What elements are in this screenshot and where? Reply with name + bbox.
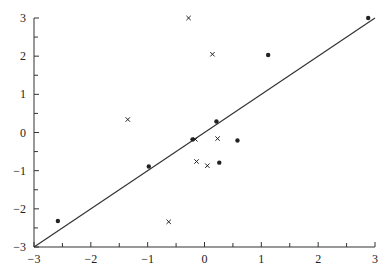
cross-marker [166,220,170,224]
cross-marker [210,52,214,56]
x-tick-label: 3 [372,252,378,266]
dot-marker [56,219,60,223]
scatter-chart: −3−2−10123−3−2−10123 [0,0,389,277]
y-tick-label: −3 [13,240,26,254]
cross-marker [205,164,209,168]
cross-marker [194,159,198,163]
y-tick-label: 3 [20,11,26,25]
y-tick-label: −1 [13,164,26,178]
dot-marker [366,16,370,20]
dot-marker [235,138,239,142]
x-tick-label: 0 [202,252,208,266]
dot-marker [147,164,151,168]
y-tick-label: 1 [20,87,26,101]
identity-line [34,18,375,247]
dot-marker [266,53,270,57]
reference-line [34,18,375,247]
dot-marker [217,160,221,164]
dot-marker [214,119,218,123]
cross-marker [215,136,219,140]
cross-marker [126,117,130,121]
x-tick-label: −2 [84,252,97,266]
y-tick-label: −2 [13,202,26,216]
cross-marker [186,16,190,20]
x-tick-label: 2 [315,252,321,266]
x-tick-label: −3 [28,252,41,266]
data-points [56,16,371,224]
x-tick-label: 1 [258,252,264,266]
y-tick-label: 2 [20,49,26,63]
x-tick-label: −1 [141,252,154,266]
y-tick-label: 0 [20,126,26,140]
